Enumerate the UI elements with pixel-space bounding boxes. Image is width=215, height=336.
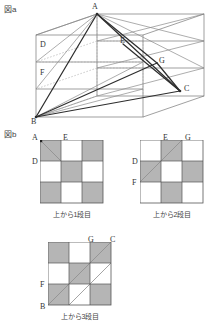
grid1-label-A: A (32, 133, 38, 142)
grid2-label-G: G (185, 133, 191, 142)
grid-layer-3-caption: 上から3段目 (48, 311, 112, 321)
grid-layer-1-svg (40, 140, 104, 206)
cube-vertex-label-G: G (159, 56, 165, 65)
grid1-label-D: D (32, 157, 38, 166)
grid-layer-2-caption: 上から2段目 (140, 209, 204, 219)
grid-layer-2: 上から2段目 (140, 140, 204, 220)
grid1-label-E: E (63, 133, 68, 142)
grid3-label-B: B (40, 302, 45, 311)
cube-vertex-label-D: D (40, 40, 46, 49)
cube-vertex-label-F: F (40, 68, 44, 77)
cube-diagram (0, 0, 215, 126)
grid-layer-2-svg (140, 140, 204, 206)
grid2-label-F: F (132, 178, 136, 187)
grid2-label-E: E (163, 133, 168, 142)
grid-layer-1-caption: 上から1段目 (40, 209, 104, 219)
grid-layer-1: 上から1段目 (40, 140, 104, 220)
grid3-label-G: G (88, 235, 94, 244)
grid-layer-3: 上から3段目 (48, 242, 112, 322)
grid2-label-D: D (132, 157, 138, 166)
figure-b-label: 図b (4, 128, 16, 139)
cube-vertex-label-A: A (92, 2, 98, 11)
grid-layer-3-svg (48, 242, 112, 308)
cube-vertex-label-E: E (120, 36, 125, 45)
cube-vertex-label-B: B (31, 117, 36, 126)
cube-vertex-label-C: C (184, 84, 189, 93)
grid3-label-F: F (40, 280, 44, 289)
grid3-label-C: C (110, 235, 115, 244)
